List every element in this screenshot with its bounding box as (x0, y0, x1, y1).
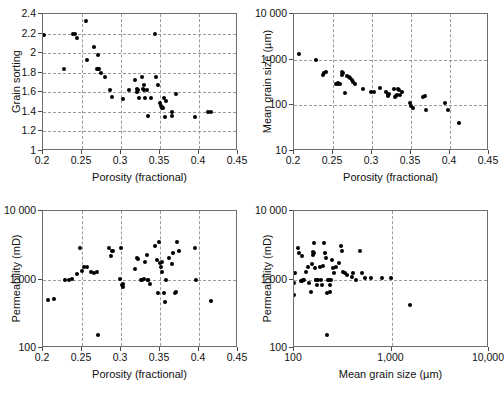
y-tick-mark (289, 210, 293, 211)
data-point (312, 251, 316, 255)
data-point (160, 260, 164, 264)
y-tick-label: 2.2 (21, 27, 36, 38)
gridline-vertical (372, 14, 373, 149)
data-point (163, 115, 167, 119)
y-tick-mark (289, 150, 293, 151)
data-point (321, 264, 325, 268)
y-tick-label: 1.8 (21, 66, 36, 77)
x-axis-title-3: Mean grain size (µm) (293, 368, 488, 380)
y-tick-label: 1.6 (21, 86, 36, 97)
y-tick-label: 1.2 (21, 125, 36, 136)
data-point (329, 278, 333, 282)
data-point (293, 271, 297, 275)
y-tick-mark (289, 279, 293, 280)
x-tick-label: 0.25 (71, 352, 91, 363)
plot-area-0 (42, 13, 237, 150)
data-point (372, 90, 376, 94)
gridline-horizontal (43, 92, 236, 93)
data-point (209, 299, 213, 303)
data-point (96, 333, 100, 337)
data-point (323, 251, 327, 255)
data-point (424, 108, 428, 112)
data-point (46, 298, 50, 302)
gridline-vertical (160, 211, 161, 346)
data-point (148, 282, 152, 286)
data-point (121, 285, 125, 289)
data-point (343, 91, 347, 95)
data-point (324, 70, 328, 74)
data-point (411, 106, 415, 110)
y-tick-label: 1.4 (21, 105, 36, 116)
y-tick-mark (38, 13, 42, 14)
data-point (312, 241, 316, 245)
data-point (328, 283, 332, 287)
plot-area-3 (293, 210, 488, 347)
data-point (99, 71, 103, 75)
data-point (73, 32, 77, 36)
x-tick-label: 0.2 (286, 155, 301, 166)
data-point (338, 82, 342, 86)
data-point (111, 249, 115, 253)
data-point (143, 260, 147, 264)
data-point (340, 249, 344, 253)
data-point (174, 290, 178, 294)
data-point (153, 32, 157, 36)
data-point (95, 270, 99, 274)
x-tick-label: 0.3 (364, 155, 379, 166)
data-point (339, 244, 343, 248)
gridline-horizontal (43, 73, 236, 74)
x-tick-label: 0.35 (149, 352, 169, 363)
data-point (42, 33, 46, 37)
data-point (313, 266, 317, 270)
data-point (423, 94, 427, 98)
data-point (167, 256, 171, 260)
data-point (319, 278, 323, 282)
x-tick-label: 0.25 (322, 155, 342, 166)
data-point (70, 277, 74, 281)
gridline-vertical (199, 211, 200, 346)
data-point (170, 262, 174, 266)
data-point (194, 278, 198, 282)
data-point (353, 82, 357, 86)
data-point (310, 262, 314, 266)
y-tick-mark (38, 150, 42, 151)
data-point (302, 278, 306, 282)
data-point (137, 96, 141, 100)
x-tick-label: 0.2 (35, 155, 50, 166)
y-axis-title-2: Permeability (mD) (10, 210, 22, 347)
data-point (389, 276, 393, 280)
data-point (161, 106, 165, 110)
panel-grain-sorting-vs-porosity: 0.20.250.30.350.40.4511.21.41.61.822.22.… (0, 0, 251, 197)
x-tick-label: 0.4 (191, 155, 206, 166)
data-point (177, 249, 181, 253)
y-tick-mark (38, 111, 42, 112)
gridline-horizontal (43, 131, 236, 132)
data-point (361, 87, 365, 91)
x-tick-label: 0.3 (113, 352, 128, 363)
data-point (337, 261, 341, 265)
data-point (330, 258, 334, 262)
x-axis-title-0: Porosity (fractional) (42, 171, 237, 183)
data-point (322, 241, 326, 245)
data-point (174, 92, 178, 96)
data-point (351, 271, 355, 275)
data-point (85, 58, 89, 62)
plot-area-1 (293, 13, 488, 150)
data-point (378, 86, 382, 90)
data-point (84, 19, 88, 23)
y-tick-label: 2.4 (21, 8, 36, 19)
data-point (306, 265, 310, 269)
data-point (170, 114, 174, 118)
data-point (164, 99, 168, 103)
data-point (300, 254, 304, 258)
data-point (309, 290, 313, 294)
data-point (175, 240, 179, 244)
data-point (78, 246, 82, 250)
data-point (162, 291, 166, 295)
y-tick-mark (38, 91, 42, 92)
y-tick-mark (38, 279, 42, 280)
x-tick-label: 0.4 (191, 352, 206, 363)
x-tick-label: 0.35 (400, 155, 420, 166)
y-axis-title-0: Grain sorting (10, 13, 22, 150)
data-point (354, 278, 358, 282)
